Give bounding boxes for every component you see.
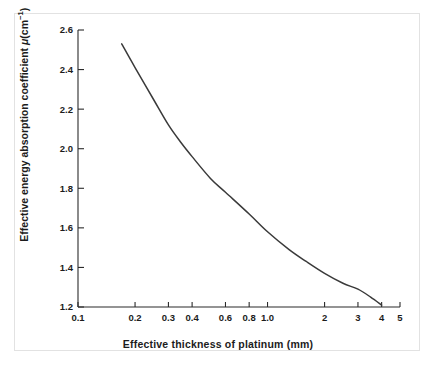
y-axis-unit-open: (cm [18, 20, 30, 39]
y-tick-label: 2.2 [60, 104, 73, 115]
chart-plot-area: 0.10.20.30.40.60.81.02345 1.21.41.61.82.… [0, 0, 436, 368]
x-tick-labels: 0.10.20.30.40.60.81.02345 [71, 312, 403, 323]
y-tick-label: 1.4 [60, 262, 74, 273]
x-tick-label: 0.4 [185, 312, 199, 323]
x-axis-label: Effective thickness of platinum (mm) [0, 338, 436, 350]
y-axis-label: Effective energy absorption coefficient … [16, 0, 30, 250]
y-tick-label: 1.6 [60, 222, 73, 233]
y-tick-label: 1.2 [60, 301, 73, 312]
x-tick-label: 1.0 [261, 312, 274, 323]
x-tick-label: 0.8 [243, 312, 256, 323]
x-tick-label: 5 [397, 312, 403, 323]
x-tick-label: 3 [355, 312, 360, 323]
y-axis-unit-close: ) [18, 8, 30, 12]
axis-group [78, 30, 400, 307]
y-axis-unit-exponent: −1 [16, 11, 25, 20]
y-tick-labels: 1.21.41.61.82.02.22.42.6 [60, 24, 74, 312]
y-tick-marks [78, 30, 84, 307]
y-tick-label: 2.6 [60, 24, 73, 35]
chart-svg: 0.10.20.30.40.60.81.02345 1.21.41.61.82.… [0, 0, 436, 368]
x-tick-label: 0.6 [219, 312, 232, 323]
data-series-line [122, 44, 382, 305]
x-tick-label: 2 [322, 312, 327, 323]
x-tick-label: 4 [379, 312, 385, 323]
mu-symbol: μ [18, 39, 30, 45]
y-axis-label-text: Effective energy absorption coefficient [18, 48, 30, 242]
x-tick-label: 0.3 [162, 312, 175, 323]
x-tick-label: 0.2 [128, 312, 141, 323]
y-tick-label: 2.4 [60, 64, 74, 75]
x-tick-marks [78, 302, 400, 307]
y-tick-label: 1.8 [60, 183, 73, 194]
y-tick-label: 2.0 [60, 143, 73, 154]
x-tick-label: 0.1 [71, 312, 85, 323]
